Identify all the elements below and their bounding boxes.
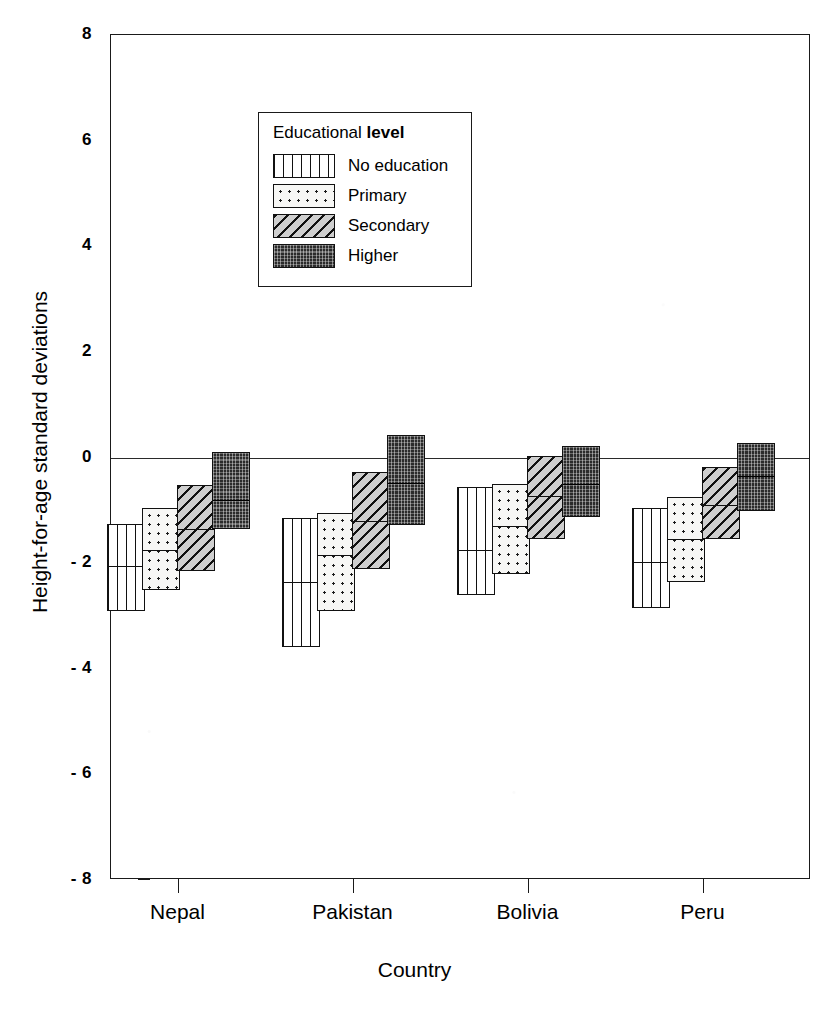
legend-entry: Secondary <box>273 212 459 240</box>
legend-title-strong: level <box>367 123 405 142</box>
legend-entry: No education <box>273 152 459 180</box>
x-tick-mark <box>703 879 704 893</box>
box-nepal-no-education <box>107 524 145 611</box>
box-bolivia-no-education <box>457 487 495 595</box>
y-tick-label: - 4 <box>71 658 92 678</box>
legend-entries: No educationPrimarySecondaryHigher <box>273 152 459 270</box>
y-tick-label: - 8 <box>71 869 92 889</box>
box-peru-primary <box>667 497 705 582</box>
x-axis-title: Country <box>0 958 829 982</box>
y-tick-label: 0 <box>82 447 92 467</box>
x-tick-label-bolivia: Bolivia <box>497 900 559 924</box>
median-line <box>633 562 669 563</box>
legend-label: Primary <box>348 186 407 206</box>
x-tick-mark <box>178 879 179 893</box>
chart-figure: 86420- 2- 4- 6- 8 Height-for-age standar… <box>0 0 829 1016</box>
y-tick-label: 4 <box>82 235 92 255</box>
median-line <box>108 566 144 567</box>
legend-label: Secondary <box>348 216 429 236</box>
median-line <box>528 496 564 497</box>
box-bolivia-secondary <box>527 456 565 539</box>
median-line <box>668 539 704 540</box>
median-line <box>213 500 249 501</box>
median-line <box>178 529 214 530</box>
legend-swatch-higher <box>273 244 335 268</box>
legend-entry: Higher <box>273 242 459 270</box>
median-line <box>353 521 389 522</box>
box-pakistan-primary <box>317 513 355 611</box>
legend-title: Educational level <box>273 123 459 143</box>
median-line <box>738 476 774 477</box>
legend-title-plain: Educational <box>273 123 367 142</box>
legend-label: Higher <box>348 246 398 266</box>
chart-legend: Educational level No educationPrimarySec… <box>258 112 472 287</box>
x-tick-mark <box>353 879 354 893</box>
y-tick-mark <box>138 879 150 880</box>
box-peru-no-education <box>632 508 670 608</box>
x-tick-label-nepal: Nepal <box>150 900 205 924</box>
box-pakistan-no-education <box>282 518 320 646</box>
box-bolivia-primary <box>492 484 530 574</box>
y-tick-label: - 2 <box>71 552 92 572</box>
legend-label: No education <box>348 156 448 176</box>
box-nepal-primary <box>142 508 180 590</box>
x-tick-label-pakistan: Pakistan <box>312 900 393 924</box>
y-tick-label: - 6 <box>71 763 92 783</box>
y-tick-label: 8 <box>82 24 92 44</box>
y-tick-label: 2 <box>82 341 92 361</box>
median-line <box>458 550 494 551</box>
box-pakistan-higher <box>387 435 425 525</box>
median-line <box>703 505 739 506</box>
median-line <box>283 582 319 583</box>
box-bolivia-higher <box>562 446 600 517</box>
box-nepal-secondary <box>177 485 215 571</box>
legend-swatch-secondary <box>273 214 335 238</box>
legend-swatch-primary <box>273 184 335 208</box>
median-line <box>143 550 179 551</box>
box-peru-secondary <box>702 467 740 539</box>
median-line <box>493 526 529 527</box>
median-line <box>318 555 354 556</box>
box-pakistan-secondary <box>352 472 390 569</box>
legend-entry: Primary <box>273 182 459 210</box>
x-tick-mark <box>528 879 529 893</box>
median-line <box>563 484 599 485</box>
x-tick-label-peru: Peru <box>680 900 724 924</box>
box-nepal-higher <box>212 452 250 529</box>
legend-swatch-no-education <box>273 154 335 178</box>
y-tick-label: 6 <box>82 130 92 150</box>
median-line <box>388 483 424 484</box>
y-axis-title: Height-for-age standard deviations <box>28 102 52 802</box>
box-peru-higher <box>737 443 775 512</box>
